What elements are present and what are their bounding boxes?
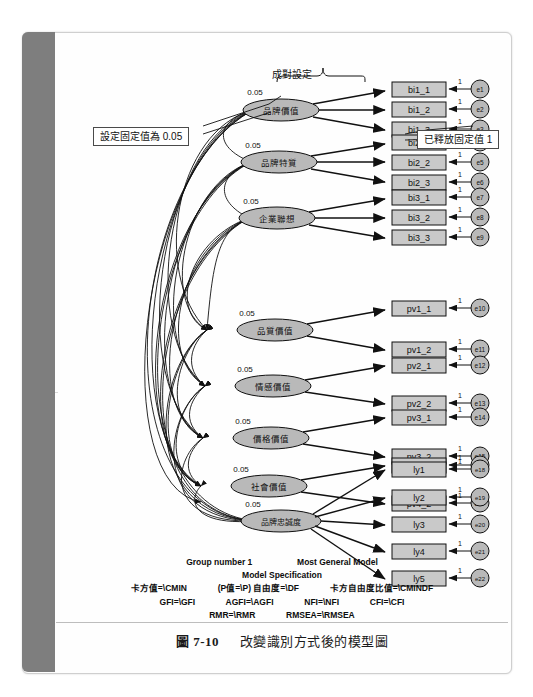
- footer-cmin: 卡方值=\CMIN: [131, 583, 187, 593]
- latent-label-bi1: 品牌價值: [263, 106, 299, 116]
- indicator-pv2_1[interactable]: pv2_1: [392, 358, 446, 373]
- latent-label-ly: 品牌忠誠度: [261, 517, 301, 527]
- error-label: e18: [475, 467, 486, 473]
- footer-row-2: Model Specification: [56, 569, 508, 582]
- loading-path: [309, 199, 385, 212]
- error-loading-label: 1: [458, 392, 462, 399]
- error-loading-label: 1: [458, 78, 462, 85]
- fixed-value-pv1: 0.05: [239, 309, 255, 318]
- loading-path: [321, 521, 385, 525]
- error-loading-label: 1: [458, 297, 462, 304]
- error-label: e8: [476, 214, 484, 221]
- latent-label-bi3: 企業聯想: [259, 214, 295, 224]
- latent-label-bi2: 品牌特質: [261, 158, 297, 168]
- footer-rmsea: RMSEA=\RMSEA: [286, 610, 355, 620]
- fixed-value-bi3: 0.05: [243, 197, 259, 206]
- error-loading-label: 1: [458, 540, 462, 547]
- indicator-label: bi1_2: [408, 105, 430, 115]
- error-loading-label: 1: [458, 354, 462, 361]
- indicator-label: bi2_2: [408, 158, 430, 168]
- error-loading-label: 1: [458, 118, 462, 125]
- indicator-bi2_3[interactable]: bi2_3: [392, 175, 446, 190]
- indicator-bi1_1[interactable]: bi1_1: [392, 82, 446, 97]
- figure-caption: 圖 7-10 改變識別方式後的模型圖: [56, 631, 508, 650]
- footer-row-3: 卡方值=\CMIN (P值=\P) 自由度=\DF 卡方自由度比值=\CMIND…: [56, 582, 508, 595]
- indicator-ly2[interactable]: ly2: [392, 490, 446, 505]
- indicator-label: ly2: [413, 493, 425, 503]
- indicator-ly3[interactable]: ly3: [392, 517, 446, 532]
- cov-arc: [178, 218, 249, 386]
- footer-row-1: Group number 1 Most General Model: [56, 556, 508, 569]
- indicator-bi2_2[interactable]: bi2_2: [392, 155, 446, 170]
- figure-page: 0.05 品牌價值 bi1_1 bi1_2 bi1_3 1 e1: [0, 0, 533, 697]
- callout-fixed-value[interactable]: 設定固定值為 0.05: [93, 127, 189, 146]
- caption-divider: [56, 622, 508, 623]
- error-loading-label: 1: [458, 445, 462, 452]
- loading-path: [305, 366, 385, 380]
- indicator-bi3_3[interactable]: bi3_3: [392, 230, 446, 245]
- loading-path: [309, 225, 385, 238]
- error-label: e9: [476, 234, 484, 241]
- indicator-label: bi3_3: [408, 233, 430, 243]
- error-label: e2: [476, 106, 484, 113]
- footer-group: Group number 1: [186, 557, 252, 567]
- footer-agfi: AGFI=\AGFI: [226, 597, 274, 607]
- fixed-value-bi2: 0.05: [245, 141, 261, 150]
- indicator-label: pv3_1: [407, 413, 432, 423]
- footer-gfi: GFI=\GFI: [160, 597, 196, 607]
- loading-path: [313, 91, 385, 104]
- pair-setting-label: 成對設定: [272, 66, 312, 81]
- fixed-value-pv4: 0.05: [233, 465, 249, 474]
- loading-path: [315, 498, 385, 517]
- fixed-value-bi1: 0.05: [247, 88, 263, 97]
- latent-group-bi1: 0.05 品牌價值 bi1_1 bi1_2 bi1_3 1 e1: [243, 78, 489, 138]
- indicator-label: pv1_1: [407, 304, 432, 314]
- loading-path: [307, 310, 385, 324]
- error-loading-label: 1: [458, 171, 462, 178]
- latent-group-pv1: 0.05 品質價值 pv1_1 pv1_2 1 e10 1 e11: [237, 297, 489, 358]
- footer-rmr: RMR=\RMR: [209, 610, 255, 620]
- cov-arc: [192, 330, 207, 386]
- error-label: e11: [475, 346, 486, 353]
- loading-path: [305, 392, 385, 404]
- latent-label-pv3: 價格價值: [253, 434, 289, 444]
- error-loading-label: 1: [458, 406, 462, 413]
- loading-path: [313, 117, 385, 130]
- indicator-pv1_2[interactable]: pv1_2: [392, 342, 446, 357]
- error-loading-label: 1: [458, 226, 462, 233]
- indicator-label: bi2_3: [408, 178, 430, 188]
- latent-group-bi3: 0.05 企業聯想 bi3_1 bi3_2 bi3_3 1 e7: [239, 186, 489, 246]
- book-spine-shadow: [22, 32, 55, 672]
- indicator-ly1[interactable]: ly1: [392, 462, 446, 477]
- indicator-label: ly3: [413, 520, 425, 530]
- fixed-value-pv2: 0.05: [237, 365, 253, 374]
- caption-text: 改變識別方式後的模型圖: [240, 634, 389, 649]
- error-label: e6: [476, 179, 484, 186]
- loading-path: [303, 418, 385, 432]
- latent-label-pv2: 情感價值: [255, 382, 291, 392]
- caption-number: 圖 7-10: [176, 634, 219, 649]
- indicator-pv1_1[interactable]: pv1_1: [392, 301, 446, 316]
- error-loading-label: 1: [458, 458, 462, 465]
- fixed-value-ly: 0.05: [245, 500, 261, 509]
- indicator-bi3_1[interactable]: bi3_1: [392, 190, 446, 205]
- loading-path: [311, 169, 385, 182]
- indicator-pv3_1[interactable]: pv3_1: [392, 410, 446, 425]
- indicator-bi1_2[interactable]: bi1_2: [392, 102, 446, 117]
- indicator-bi3_2[interactable]: bi3_2: [392, 210, 446, 225]
- indicator-label: pv2_2: [407, 399, 432, 409]
- error-loading-label: 1: [458, 98, 462, 105]
- callout-released-value[interactable]: 已釋放固定值 1: [417, 130, 499, 149]
- indicator-label: ly1: [413, 465, 425, 475]
- indicator-label: pv2_1: [407, 361, 432, 371]
- error-loading-label: 1: [458, 186, 462, 193]
- latent-label-pv4: 社會價值: [251, 482, 287, 492]
- loading-path: [301, 492, 385, 504]
- indicator-pv2_2[interactable]: pv2_2: [392, 396, 446, 411]
- footer-row-4: GFI=\GFI AGFI=\AGFI NFI=\NFI CFI=\CFI: [56, 596, 508, 609]
- error-loading-label: 1: [458, 492, 462, 499]
- error-label: e10: [475, 305, 486, 312]
- latent-label-pv1: 品質價值: [257, 326, 293, 336]
- error-loading-label: 1: [458, 513, 462, 520]
- latent-group-pv2: 0.05 情感價值 pv2_1 pv2_2 1 e12 1 e13: [235, 354, 489, 412]
